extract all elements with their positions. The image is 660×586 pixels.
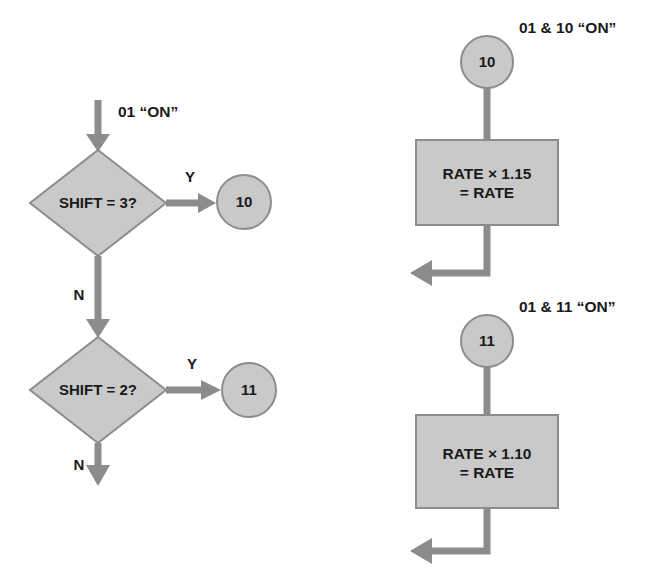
edge-decision-1-yes [166, 193, 216, 213]
process-box-rate-1-10-line-2: = RATE [460, 464, 514, 481]
process-box-rate-1-10-line-1: RATE × 1.10 [443, 445, 532, 462]
entry-arrow-decision-1 [86, 100, 110, 152]
exit-arrow-process-a [410, 225, 487, 286]
caption-block-b: 01 & 11 “ON” [519, 298, 616, 315]
connector-node-11-left[interactable]: 11 [222, 363, 276, 417]
connector-node-10-right-label: 10 [479, 53, 496, 70]
caption-block-a: 01 & 10 “ON” [519, 19, 616, 36]
process-box-rate-1-10[interactable]: RATE × 1.10 = RATE [416, 415, 558, 508]
exit-arrow-process-b [410, 508, 487, 564]
connector-node-11-right[interactable]: 11 [461, 315, 513, 367]
process-box-rate-1-15-line-2: = RATE [460, 184, 514, 201]
entry-label-01-on: 01 “ON” [118, 103, 178, 120]
decision-shift-3-label: SHIFT = 3? [59, 194, 137, 211]
process-box-rate-1-15[interactable]: RATE × 1.15 = RATE [416, 140, 558, 225]
edge-label-decision-1-no: N [74, 286, 85, 303]
edge-label-decision-2-no: N [74, 456, 85, 473]
decision-shift-2-label: SHIFT = 2? [59, 381, 137, 398]
connector-node-10-left-label: 10 [236, 193, 253, 210]
decision-shift-2[interactable]: SHIFT = 2? [30, 337, 166, 443]
process-box-rate-1-15-line-1: RATE × 1.15 [443, 165, 532, 182]
connector-node-10-right[interactable]: 10 [461, 36, 513, 88]
edge-decision-2-no [86, 443, 110, 486]
edge-label-decision-1-yes: Y [185, 168, 195, 185]
edge-decision-1-no [86, 256, 110, 338]
edge-decision-2-yes [166, 380, 221, 400]
connector-node-11-right-label: 11 [479, 332, 495, 349]
decision-shift-3[interactable]: SHIFT = 3? [30, 150, 166, 256]
connector-node-10-left[interactable]: 10 [217, 175, 271, 229]
connector-node-11-left-label: 11 [241, 381, 257, 398]
flowchart-canvas: 01 “ON” SHIFT = 3? Y 10 N SHIFT = 2? Y 1… [0, 0, 660, 586]
edge-label-decision-2-yes: Y [187, 355, 197, 372]
